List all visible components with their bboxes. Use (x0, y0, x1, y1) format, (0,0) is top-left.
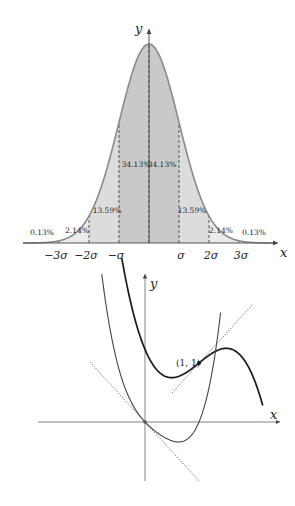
tick-label: −3σ (44, 249, 68, 262)
thin-curve (102, 274, 221, 442)
x-axis-label: x (270, 407, 278, 422)
y-axis-label: y (149, 276, 158, 291)
tick-label: −2σ (74, 249, 98, 262)
normal-distribution-chart: xy0.13%2.14%13.59%34.13%34.13%13.59%2.14… (23, 21, 288, 262)
band-label: 0.13% (30, 228, 54, 237)
band-label: 2.14% (209, 226, 233, 235)
figure: xy0.13%2.14%13.59%34.13%34.13%13.59%2.14… (0, 0, 295, 506)
band-label: 34.13% (148, 160, 177, 169)
x-axis-label: x (280, 245, 288, 260)
band-4 (149, 44, 179, 243)
band-label: 13.59% (93, 206, 122, 215)
function-chart: xy(1, 1) (38, 258, 280, 481)
thick-curve (122, 258, 263, 405)
tick-label: 2σ (203, 249, 219, 262)
tangent-at-point (172, 305, 252, 393)
origin-point (143, 420, 147, 424)
band-label: 0.13% (242, 228, 266, 237)
band-3 (119, 44, 149, 243)
band-label: 34.13% (122, 160, 151, 169)
tick-label: σ (177, 249, 185, 262)
band-label: 2.14% (65, 226, 89, 235)
band-label: 13.59% (178, 206, 207, 215)
tick-label: 3σ (234, 249, 249, 262)
point-label: (1, 1) (176, 358, 200, 368)
y-axis-label: y (134, 21, 143, 36)
